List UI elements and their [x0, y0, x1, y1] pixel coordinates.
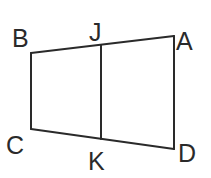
point-label-k: K — [88, 147, 105, 175]
segment-dc — [31, 129, 174, 149]
segments-group — [31, 36, 174, 149]
vertex-label-a: A — [176, 27, 193, 55]
vertex-label-d: D — [178, 139, 196, 167]
geometry-diagram: A B C D J K — [0, 0, 211, 178]
point-label-j: J — [89, 18, 102, 46]
vertex-label-c: C — [6, 131, 24, 159]
segment-ba — [31, 36, 174, 53]
vertex-label-b: B — [12, 24, 29, 52]
